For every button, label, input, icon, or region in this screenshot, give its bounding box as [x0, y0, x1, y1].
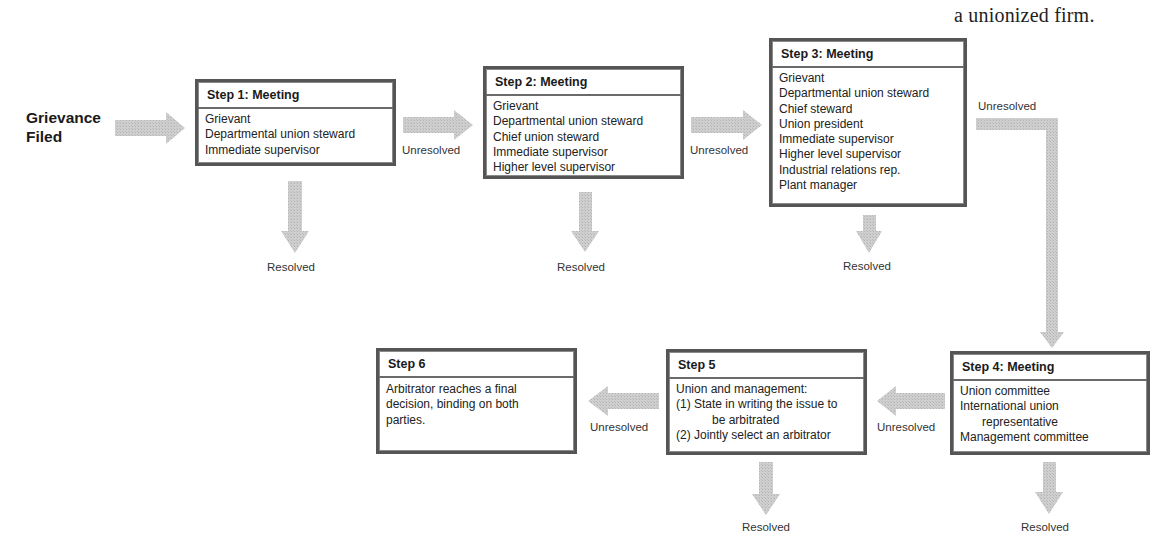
participant: International union [960, 399, 1141, 414]
step-1-box: Step 1: Meeting Grievant Departmental un… [195, 79, 396, 166]
arrow-elbow-down-icon [976, 118, 1064, 348]
arrow-down-icon [571, 192, 599, 252]
participant: Chief steward [779, 102, 958, 117]
step-2-box: Step 2: Meeting Grievant Departmental un… [483, 66, 684, 179]
step-outcome: Arbitrator reaches a final decision, bin… [379, 378, 574, 430]
step-title: Step 1: Meeting [198, 82, 393, 109]
unresolved-label: Unresolved [590, 421, 648, 433]
resolved-label: Resolved [557, 261, 605, 273]
unresolved-label: Unresolved [978, 100, 1036, 112]
resolved-label: Resolved [742, 521, 790, 533]
step-participants: Grievant Departmental union steward Chie… [772, 68, 964, 195]
participant: Chief union steward [493, 130, 675, 145]
arrow-down-icon [1035, 462, 1063, 514]
outcome-line: Arbitrator reaches a final [386, 382, 568, 397]
participant: Higher level supervisor [493, 160, 675, 175]
step-title: Step 5 [669, 352, 864, 379]
participant-continued: representative [960, 415, 1141, 430]
action-line: Union and management: [676, 382, 858, 397]
participant: Immediate supervisor [779, 132, 958, 147]
start-label-line: Filed [26, 127, 101, 146]
step-actions: Union and management: (1) State in writi… [669, 379, 864, 445]
participant: Union committee [960, 384, 1141, 399]
participant: Grievant [205, 112, 387, 127]
participant: Plant manager [779, 178, 958, 193]
participant: Management committee [960, 430, 1141, 445]
arrow-right-icon [115, 112, 185, 144]
step-title: Step 2: Meeting [486, 69, 681, 96]
grievance-filed-label: Grievance Filed [26, 108, 101, 146]
participant: Grievant [493, 99, 675, 114]
step-participants: Grievant Departmental union steward Imme… [198, 109, 393, 160]
step-6-box: Step 6 Arbitrator reaches a final decisi… [376, 348, 577, 454]
arrow-right-icon [403, 110, 473, 140]
arrow-left-icon [877, 386, 945, 416]
action-line: (1) State in writing the issue to [676, 397, 858, 412]
step-title: Step 3: Meeting [772, 41, 964, 68]
step-participants: Grievant Departmental union steward Chie… [486, 96, 681, 177]
step-3-box: Step 3: Meeting Grievant Departmental un… [769, 38, 967, 207]
arrow-down-icon [752, 462, 780, 515]
participant: Departmental union steward [779, 86, 958, 101]
action-line: (2) Jointly select an arbitrator [676, 428, 858, 443]
resolved-label: Resolved [267, 261, 315, 273]
participant: Union president [779, 117, 958, 132]
action-line-continued: be arbitrated [676, 413, 858, 428]
participant: Departmental union steward [493, 114, 675, 129]
participant: Immediate supervisor [205, 143, 387, 158]
step-title: Step 6 [379, 351, 574, 378]
resolved-label: Resolved [843, 260, 891, 272]
resolved-label: Resolved [1021, 521, 1069, 533]
arrow-left-icon [588, 386, 659, 416]
start-label-line: Grievance [26, 108, 101, 127]
participant: Immediate supervisor [493, 145, 675, 160]
outcome-line: decision, binding on both [386, 397, 568, 412]
arrow-down-icon [281, 181, 309, 253]
step-4-box: Step 4: Meeting Union committee Internat… [950, 351, 1150, 455]
participant: Grievant [779, 71, 958, 86]
outcome-line: parties. [386, 413, 568, 428]
unresolved-label: Unresolved [877, 421, 935, 433]
step-participants: Union committee International union repr… [953, 381, 1147, 447]
step-5-box: Step 5 Union and management: (1) State i… [666, 349, 867, 455]
unresolved-label: Unresolved [690, 144, 748, 156]
participant: Departmental union steward [205, 127, 387, 142]
participant: Industrial relations rep. [779, 163, 958, 178]
step-title: Step 4: Meeting [953, 354, 1147, 381]
participant: Higher level supervisor [779, 147, 958, 162]
arrow-down-icon [856, 215, 882, 253]
unresolved-label: Unresolved [402, 144, 460, 156]
arrow-right-icon [691, 110, 762, 140]
